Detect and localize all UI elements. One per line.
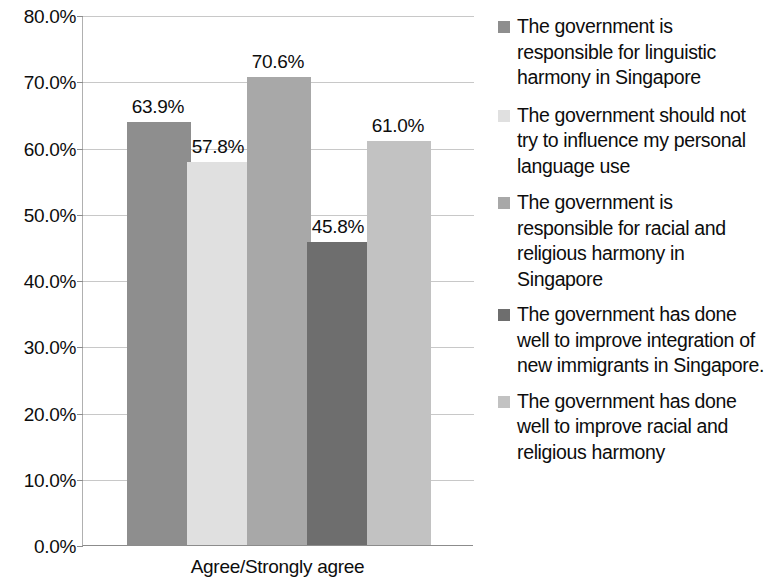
y-axis-tick-mark <box>77 546 83 547</box>
y-axis-tick-label: 70.0% <box>4 73 76 92</box>
y-axis-tick-label: 60.0% <box>4 140 76 159</box>
y-axis-tick-label: 10.0% <box>4 471 76 490</box>
legend-item-label: The government should not try to influen… <box>517 103 766 180</box>
bar <box>247 77 311 545</box>
bar <box>127 122 191 545</box>
legend-item-label: The government has done well to improve … <box>517 302 766 379</box>
y-axis-tick-label: 80.0% <box>4 7 76 26</box>
legend-swatch-icon <box>498 197 510 209</box>
bar <box>367 141 431 545</box>
y-axis-tick-label: 30.0% <box>4 338 76 357</box>
bar <box>307 242 371 545</box>
chart-legend: The government is responsible for lingui… <box>498 14 766 465</box>
y-axis-tick-mark <box>77 215 83 216</box>
bar-chart: 80.0%70.0%60.0%50.0%40.0%30.0%20.0%10.0%… <box>0 0 766 585</box>
y-axis-tick-mark <box>77 414 83 415</box>
x-axis-title: Agree/Strongly agree <box>82 556 473 578</box>
legend-swatch-icon <box>498 21 510 33</box>
plot-area <box>82 16 473 546</box>
bar <box>187 162 251 545</box>
legend-item[interactable]: The government has done well to improve … <box>498 302 766 379</box>
legend-item-label: The government is responsible for lingui… <box>517 14 766 91</box>
legend-item-label: The government has done well to improve … <box>517 389 766 466</box>
gridline <box>83 16 474 17</box>
y-axis-tick-mark <box>77 480 83 481</box>
gridline <box>83 546 474 547</box>
y-axis-tick-mark <box>77 82 83 83</box>
legend-item-label: The government is responsible for racial… <box>517 190 766 292</box>
y-axis-tick-mark <box>77 281 83 282</box>
legend-item[interactable]: The government has done well to improve … <box>498 389 766 466</box>
y-axis: 80.0%70.0%60.0%50.0%40.0%30.0%20.0%10.0%… <box>0 0 76 585</box>
legend-swatch-icon <box>498 396 510 408</box>
y-axis-tick-mark <box>77 149 83 150</box>
y-axis-tick-mark <box>77 16 83 17</box>
legend-item[interactable]: The government should not try to influen… <box>498 103 766 180</box>
y-axis-tick-mark <box>77 347 83 348</box>
y-axis-tick-label: 40.0% <box>4 272 76 291</box>
y-axis-tick-label: 0.0% <box>4 537 76 556</box>
legend-item[interactable]: The government is responsible for lingui… <box>498 14 766 91</box>
y-axis-tick-label: 20.0% <box>4 405 76 424</box>
legend-swatch-icon <box>498 110 510 122</box>
legend-swatch-icon <box>498 309 510 321</box>
y-axis-tick-label: 50.0% <box>4 206 76 225</box>
legend-item[interactable]: The government is responsible for racial… <box>498 190 766 292</box>
